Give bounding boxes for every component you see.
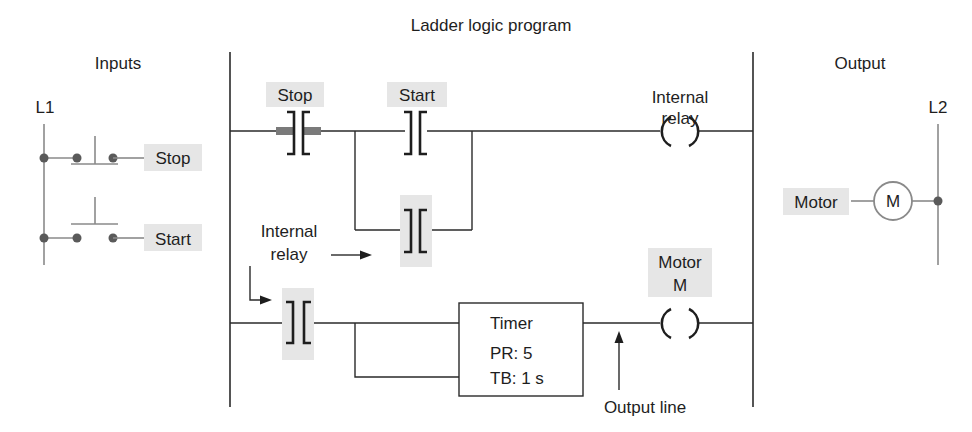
output-heading: Output — [834, 54, 885, 73]
arrow-up-icon — [615, 331, 624, 343]
stop-contact-label: Stop — [278, 86, 313, 105]
rail-l1-label: L1 — [36, 98, 55, 117]
seal-in-contact-highlight — [400, 195, 432, 267]
motor-coil-label-2: M — [673, 276, 687, 295]
output-line-label: Output line — [604, 398, 686, 417]
motor-coil-label-1: Motor — [658, 253, 702, 272]
internal-relay-annotation-2: relay — [271, 245, 308, 264]
start-input-label: Start — [155, 230, 191, 249]
output-line-annotation: Output line — [604, 331, 686, 417]
stop-pushbutton: Stop — [40, 136, 203, 171]
timer-reset-branch — [355, 323, 459, 377]
seal-in-branch — [355, 131, 472, 267]
rung-2: Timer PR: 5 TB: 1 s Output line Motor M — [230, 248, 753, 417]
diagram-title: Ladder logic program — [411, 16, 572, 35]
start-pushbutton: Start — [40, 197, 203, 251]
internal-relay-coil: Internal relay — [652, 88, 709, 146]
start-contact-label: Start — [399, 86, 435, 105]
start-contact: Start — [387, 82, 447, 154]
timer-title: Timer — [490, 314, 533, 333]
motor-coil: Motor M — [648, 248, 712, 338]
ladder-logic-diagram: Ladder logic program Inputs Output L1 St… — [0, 0, 972, 432]
motor-output-label: Motor — [794, 193, 838, 212]
motor-symbol-letter: M — [886, 192, 900, 211]
inputs-heading: Inputs — [95, 54, 141, 73]
input-wiring: L1 Stop Start — [36, 98, 202, 265]
timer-block: Timer PR: 5 TB: 1 s — [459, 303, 583, 396]
arrow-to-contact-icon — [260, 296, 272, 305]
output-wiring: L2 Motor M — [783, 98, 947, 265]
internal-relay-coil-label-1: Internal — [652, 88, 709, 107]
timer-timebase: TB: 1 s — [490, 369, 544, 388]
internal-relay-contact — [282, 288, 314, 360]
internal-relay-annotation-1: Internal — [261, 222, 318, 241]
rail-l2-label: L2 — [929, 98, 948, 117]
stop-contact: Stop — [266, 82, 324, 154]
stop-input-label: Stop — [156, 149, 191, 168]
timer-preset: PR: 5 — [490, 344, 533, 363]
